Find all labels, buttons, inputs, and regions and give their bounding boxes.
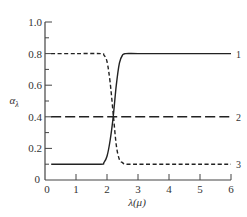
curve-label-3: 3 [236,159,241,170]
y-tick-label: 0.2 [28,142,42,154]
x-tick-label: 3 [135,183,141,195]
y-tick-label: 0.8 [28,48,42,60]
x-axis-label: λ(μ) [127,196,146,209]
curve-label-2: 2 [236,112,241,123]
y-tick-label: 0.6 [28,79,42,91]
x-tick-label: 0 [44,183,50,195]
x-tick-label: 2 [104,183,110,195]
y-tick-label: 1.0 [28,16,42,28]
spectral-absorptance-chart: 012345600.20.40.60.81.0 123 λ(μ) αλ [0,0,247,217]
y-tick-label: 0.4 [28,111,42,123]
curve-label-1: 1 [236,49,241,60]
series-group [51,53,231,164]
series-line-3 [51,53,231,164]
x-tick-label: 5 [197,183,203,195]
x-tick-label: 4 [166,183,172,195]
y-axis-label-subscript: λ [14,100,19,109]
x-tick-label: 1 [73,183,79,195]
x-tick-label: 6 [228,183,234,195]
curve-labels: 123 [236,49,241,171]
y-axis-label: αλ [9,94,19,109]
y-tick-label: 0 [35,173,41,185]
axes [45,22,231,180]
series-line-1 [51,53,231,164]
ticks: 012345600.20.40.60.81.0 [28,16,234,195]
